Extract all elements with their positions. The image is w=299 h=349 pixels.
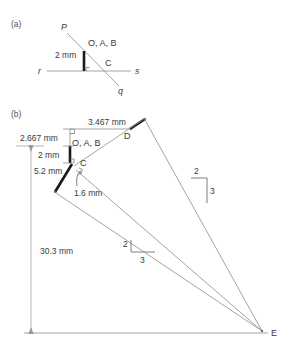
arrowhead-up-30-3mm xyxy=(28,145,33,152)
part-b-label: (b) xyxy=(11,109,22,119)
slope-right-rise: 2 xyxy=(194,166,199,176)
vertex-E xyxy=(261,330,263,332)
point-label-s: s xyxy=(135,66,140,76)
member-lowerleft-to-E xyxy=(56,193,262,331)
point-label-E: E xyxy=(271,328,277,338)
slope-triangle-left: 2 3 xyxy=(123,239,155,265)
slope-triangle-right: 2 3 xyxy=(191,166,215,203)
member-C-to-E xyxy=(76,170,262,331)
part-a-group: (a) P q r s C O, A, B 2 mm xyxy=(11,19,140,96)
dim-label-2-667mm: 2.667 mm xyxy=(20,133,58,143)
point-label-OAB-a: O, A, B xyxy=(88,38,117,48)
slope-right-run: 3 xyxy=(210,186,215,196)
dim-label-5-2mm: 5.2 mm xyxy=(34,166,62,176)
dim-label-30-3mm: 30.3 mm xyxy=(40,246,73,256)
point-label-r: r xyxy=(38,66,42,76)
apex-vertex xyxy=(144,118,146,120)
slope-triangle-right-legs xyxy=(191,178,207,203)
mechanism-figure: (a) P q r s C O, A, B 2 mm (b) 30.3 mm xyxy=(0,0,299,349)
dim-label-2mm-a: 2 mm xyxy=(55,50,76,60)
dim-label-3-467mm: 3.467 mm xyxy=(88,117,126,127)
point-label-P: P xyxy=(61,22,67,32)
point-label-D: D xyxy=(124,131,131,141)
point-label-OAB-b: O, A, B xyxy=(72,138,101,148)
point-label-q: q xyxy=(118,86,123,96)
segment-apex-bold xyxy=(130,119,145,129)
part-b-group: (b) 30.3 mm 3.467 mm 2.667 mm 2 mm 5.2 m… xyxy=(11,109,277,338)
lower-left-vertex xyxy=(54,191,56,193)
part-a-label: (a) xyxy=(11,19,22,29)
member-apex-to-E xyxy=(145,120,262,331)
right-angle-mark-a xyxy=(86,68,90,72)
slope-left-rise: 2 xyxy=(123,239,128,249)
point-label-C-a: C xyxy=(105,58,112,68)
right-angle-mark-top-b xyxy=(70,129,75,134)
dim-label-2mm-b: 2 mm xyxy=(38,150,59,160)
point-label-C-b: C xyxy=(80,158,87,168)
slope-left-run: 3 xyxy=(140,255,145,265)
